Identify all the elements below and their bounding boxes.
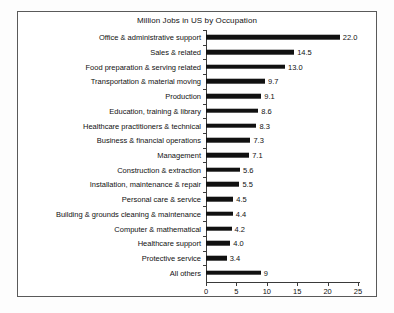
bar [206, 226, 232, 231]
category-label: Transportation & material moving [91, 77, 201, 86]
bar [206, 94, 261, 99]
x-axis-tick [297, 283, 298, 286]
category-label: Protective service [142, 253, 201, 262]
y-axis-tick [203, 221, 206, 222]
bar [206, 50, 294, 55]
y-axis-tick [203, 265, 206, 266]
bar-row: All others9 [206, 265, 358, 280]
bar-value-label: 8.6 [261, 106, 271, 115]
category-label: Healthcare support [138, 239, 201, 248]
bar-value-label: 9.7 [268, 77, 278, 86]
bar-value-label: 22.0 [343, 33, 358, 42]
bar-row: Food preparation & serving related13.0 [206, 59, 358, 74]
bar [206, 197, 233, 202]
bar [206, 35, 340, 40]
category-label: Personal care & service [122, 195, 201, 204]
bar-row: Healthcare support4.0 [206, 236, 358, 251]
category-label: Production [165, 92, 201, 101]
bar-value-label: 9 [264, 268, 268, 277]
x-axis-tick [236, 283, 237, 286]
y-axis-tick [203, 59, 206, 60]
y-axis-tick [203, 251, 206, 252]
bar-value-label: 13.0 [288, 62, 303, 71]
category-label: Business & financial operations [97, 136, 201, 145]
chart-page: Million Jobs in US by Occupation Office … [0, 0, 394, 313]
bar-value-label: 7.1 [252, 150, 262, 159]
y-axis-tick [203, 206, 206, 207]
bar-row: Construction & extraction5.6 [206, 162, 358, 177]
bar [206, 109, 258, 114]
y-axis-tick [203, 236, 206, 237]
bar-value-label: 4.4 [236, 209, 246, 218]
y-axis-tick [203, 45, 206, 46]
bar-value-label: 5.5 [242, 180, 252, 189]
x-axis-ticks: 0510152025 [206, 283, 360, 297]
bar-value-label: 3.4 [230, 253, 240, 262]
category-label: Office & administrative support [99, 33, 201, 42]
bar-row: Computer & mathematical4.2 [206, 221, 358, 236]
bar-value-label: 4.0 [233, 239, 243, 248]
bar-row: Installation, maintenance & repair5.5 [206, 177, 358, 192]
y-axis-tick [203, 133, 206, 134]
bar [206, 241, 230, 246]
bar-row: Office & administrative support22.0 [206, 30, 358, 45]
bar-row: Management7.1 [206, 148, 358, 163]
bar [206, 256, 227, 261]
y-axis-tick [203, 177, 206, 178]
y-axis-tick [203, 192, 206, 193]
y-axis-tick [203, 89, 206, 90]
bar-row: Personal care & service4.5 [206, 192, 358, 207]
category-label: Computer & mathematical [114, 224, 201, 233]
y-axis-tick [203, 74, 206, 75]
bar [206, 182, 239, 187]
x-axis-tick [358, 283, 359, 286]
category-label: Installation, maintenance & repair [90, 180, 201, 189]
x-axis-tick-label: 5 [234, 287, 238, 296]
bar-row: Sales & related14.5 [206, 45, 358, 60]
x-axis-tick-label: 20 [323, 287, 331, 296]
x-axis-tick [206, 283, 207, 286]
bar-value-label: 7.3 [253, 136, 263, 145]
x-axis-tick-label: 25 [354, 287, 362, 296]
category-label: All others [170, 268, 201, 277]
category-label: Healthcare practitioners & technical [83, 121, 201, 130]
bar-row: Business & financial operations7.3 [206, 133, 358, 148]
plot-area: Office & administrative support22.0Sales… [206, 30, 358, 280]
bar [206, 138, 250, 143]
y-axis-tick [203, 30, 206, 31]
y-axis-tick [203, 148, 206, 149]
y-axis-tick [203, 118, 206, 119]
y-axis-tick [203, 162, 206, 163]
x-axis-tick [267, 283, 268, 286]
category-label: Education, training & library [109, 106, 201, 115]
bar-row: Transportation & material moving9.7 [206, 74, 358, 89]
x-axis-tick-label: 0 [204, 287, 208, 296]
bar-value-label: 9.1 [264, 92, 274, 101]
bar-row: Building & grounds cleaning & maintenanc… [206, 206, 358, 221]
x-axis-tick-label: 15 [293, 287, 301, 296]
bar-value-label: 4.5 [236, 195, 246, 204]
bar [206, 270, 261, 275]
chart-frame: Million Jobs in US by Occupation Office … [17, 11, 377, 297]
bar [206, 79, 265, 84]
bar [206, 64, 285, 69]
bar-row: Production9.1 [206, 89, 358, 104]
bar [206, 167, 240, 172]
bar-value-label: 14.5 [297, 48, 312, 57]
bar [206, 123, 256, 128]
bar-value-label: 5.6 [243, 165, 253, 174]
category-label: Management [157, 150, 201, 159]
category-label: Building & grounds cleaning & maintenanc… [56, 209, 201, 218]
x-axis-tick [328, 283, 329, 286]
category-label: Food preparation & serving related [86, 62, 202, 71]
bar [206, 153, 249, 158]
bar [206, 212, 233, 217]
bar-row: Education, training & library8.6 [206, 104, 358, 119]
bar-value-label: 8.3 [259, 121, 269, 130]
bar-row: Healthcare practitioners & technical8.3 [206, 118, 358, 133]
bar-value-label: 4.2 [235, 224, 245, 233]
category-label: Sales & related [150, 48, 201, 57]
x-axis-tick-label: 10 [263, 287, 271, 296]
chart-title: Million Jobs in US by Occupation [18, 16, 376, 25]
y-axis-tick [203, 104, 206, 105]
